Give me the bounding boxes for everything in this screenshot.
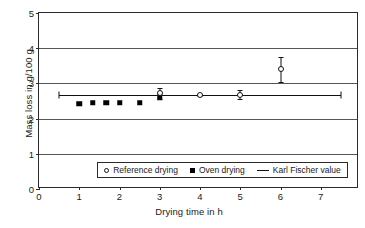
x-tick-mark-4 — [200, 187, 201, 190]
gridline-y-2 — [39, 119, 357, 120]
x-tick-mark-6 — [281, 187, 282, 190]
error-bar-cap-upper — [278, 57, 283, 58]
data-point-reference-drying — [237, 92, 243, 98]
legend-marker-filled-square-icon — [190, 168, 195, 173]
gridline-y-4 — [39, 48, 357, 49]
x-tick-mark-7 — [321, 187, 322, 190]
legend-marker-open-circle-icon — [104, 168, 109, 173]
x-tick-mark-3 — [160, 187, 161, 190]
y-tick-mark-1 — [36, 154, 39, 155]
chart-figure: Mass loss in g/100 g Drying time in h 01… — [0, 0, 365, 228]
x-tick-mark-5 — [240, 187, 241, 190]
chart-legend: Reference dryingOven dryingKarl Fischer … — [97, 162, 348, 178]
x-tick-mark-2 — [120, 187, 121, 190]
legend-label: Oven drying — [199, 165, 245, 175]
gridline-y-3 — [39, 83, 357, 84]
y-tick-label-3: 3 — [8, 78, 39, 89]
data-point-oven-drying — [90, 100, 96, 106]
y-tick-label-5: 5 — [8, 8, 39, 19]
data-point-oven-drying — [77, 101, 83, 107]
legend-label: Karl Fischer value — [273, 165, 341, 175]
x-tick-mark-0 — [39, 187, 40, 190]
y-tick-label-2: 2 — [8, 113, 39, 124]
gridline-y-1 — [39, 154, 357, 155]
error-bar-cap-lower — [157, 99, 162, 100]
karl-fischer-line-cap-right — [340, 91, 341, 98]
y-tick-label-1: 1 — [8, 148, 39, 159]
y-tick-mark-2 — [36, 119, 39, 120]
legend-item-oven-drying: Oven drying — [190, 165, 245, 175]
y-tick-mark-5 — [36, 13, 39, 14]
legend-label: Reference drying — [113, 165, 178, 175]
x-axis-label: Drying time in h — [38, 206, 340, 217]
data-point-oven-drying — [103, 100, 109, 106]
data-point-reference-drying — [157, 90, 163, 96]
error-bar-cap-lower — [238, 99, 243, 100]
karl-fischer-line-cap-left — [59, 91, 60, 98]
legend-item-karl-fischer-value: Karl Fischer value — [257, 165, 341, 175]
error-bar-cap-lower — [278, 82, 283, 83]
legend-marker-line-icon — [257, 170, 269, 171]
data-point-reference-drying — [278, 66, 284, 72]
y-tick-mark-3 — [36, 83, 39, 84]
data-point-oven-drying — [117, 100, 123, 106]
data-point-oven-drying — [137, 100, 143, 106]
y-tick-mark-4 — [36, 48, 39, 49]
legend-item-reference-drying: Reference drying — [104, 165, 178, 175]
data-point-reference-drying — [197, 92, 203, 98]
error-bar-cap-upper — [157, 88, 162, 89]
y-tick-label-4: 4 — [8, 43, 39, 54]
x-tick-mark-1 — [79, 187, 80, 190]
